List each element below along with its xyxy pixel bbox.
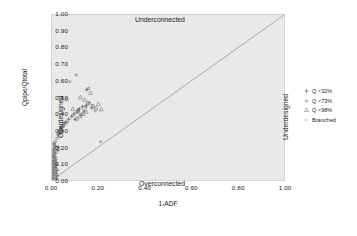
plot-svg: [52, 15, 284, 180]
plot-area: [51, 14, 285, 181]
legend-label: Q <73%: [312, 98, 332, 104]
y-tick-label: 0.00: [55, 177, 68, 184]
legend-label: Q <98%: [312, 107, 332, 113]
x-tick-label: 0.00: [31, 184, 71, 191]
x-tick-label: 1.00: [265, 184, 305, 191]
y-tick-label: 0.10: [55, 160, 68, 167]
dot-marker-icon: [301, 97, 312, 105]
chart-root: 0.000.100.200.300.400.500.600.700.800.90…: [0, 0, 357, 236]
triangle-marker-icon: [301, 106, 312, 114]
plus-marker-icon: [301, 87, 312, 95]
y-tick-label: 0.80: [55, 43, 68, 50]
dash-marker-icon: [301, 116, 312, 124]
legend-item[interactable]: Q <32%: [301, 87, 353, 95]
legend-item[interactable]: Branched: [301, 116, 353, 124]
legend-item[interactable]: Q <73%: [301, 97, 353, 105]
y-tick-label: 0.20: [55, 144, 68, 151]
legend-item[interactable]: Q <98%: [301, 106, 353, 114]
chart-legend: Q <32%Q <73%Q <98%Branched: [301, 87, 353, 125]
y-tick-label: 0.90: [55, 27, 68, 34]
annotation-overdesigned: Overdesigned: [57, 96, 64, 138]
y-tick-label: 1.00: [55, 10, 68, 17]
annotation-underdesigned: Underdesigned: [282, 94, 289, 140]
y-tick-label: 0.60: [55, 77, 68, 84]
x-tick-label: 0.80: [218, 184, 258, 191]
annotation-underconnected: Underconnected: [135, 16, 185, 23]
legend-label: Q <32%: [312, 88, 332, 94]
annotation-overconnected: Overconnected: [139, 180, 185, 187]
one-to-one-diagonal-line: [52, 15, 284, 180]
legend-label: Branched: [312, 117, 336, 123]
x-axis-title: 1-ADF: [118, 200, 218, 207]
y-tick-label: 0.70: [55, 60, 68, 67]
x-tick-label: 0.20: [78, 184, 118, 191]
y-axis-title: Qpipe/Qtotal: [21, 48, 28, 128]
